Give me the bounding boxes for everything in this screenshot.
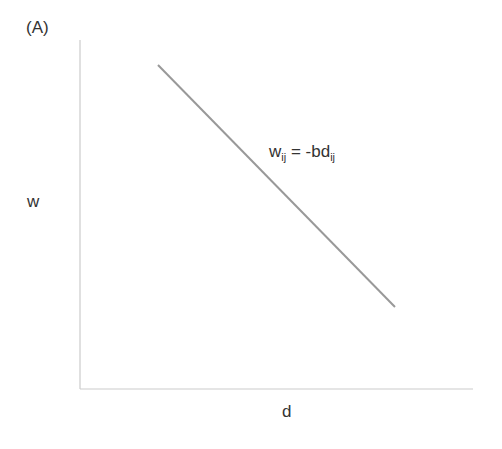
equation-annotation: wij = -bdij bbox=[269, 142, 335, 163]
plot-area bbox=[0, 0, 502, 449]
y-axis-label: w bbox=[27, 192, 39, 212]
eq-middle: = -bd bbox=[286, 142, 330, 161]
data-line bbox=[158, 65, 395, 307]
eq-d-subscript: ij bbox=[330, 151, 335, 163]
eq-w: w bbox=[269, 142, 281, 161]
x-axis-label: d bbox=[282, 402, 291, 422]
